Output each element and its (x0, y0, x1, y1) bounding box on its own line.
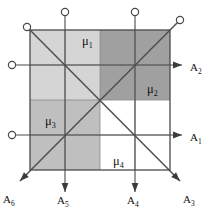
node-circle-a6[interactable] (176, 16, 183, 23)
axis-label-a4: A4 (127, 194, 139, 208)
axis-label-base: A (183, 193, 191, 205)
grid-cell-r0-c2 (100, 30, 135, 65)
arrow-head-a4 (132, 183, 139, 192)
axis-label-a6: A6 (3, 193, 15, 208)
axis-label-subscript: 1 (198, 137, 202, 146)
region-label-subscript: 2 (154, 89, 158, 98)
grid-cell-r1-c0 (30, 65, 65, 100)
node-circle-a1[interactable] (8, 131, 15, 138)
axis-label-base: A (127, 194, 135, 206)
axis-label-subscript: 3 (191, 199, 195, 208)
axis-label-subscript: 6 (11, 199, 15, 208)
node-circle-a5[interactable] (61, 8, 68, 15)
arrow-head-a1 (173, 132, 182, 139)
arrow-head-a2 (173, 62, 182, 69)
diagram-figure: A1A2A3A4A5A6 μ1μ2μ3μ4 (0, 0, 210, 208)
axis-label-a1: A1 (190, 131, 202, 146)
axis-label-subscript: 4 (135, 200, 139, 208)
grid-cell-r2-c3 (135, 100, 170, 135)
diagram-canvas: A1A2A3A4A5A6 μ1μ2μ3μ4 (0, 0, 210, 208)
axis-label-base: A (190, 61, 198, 73)
axis-label-subscript: 2 (198, 67, 202, 76)
axis-label-a5: A5 (57, 194, 69, 208)
axis-label-base: A (3, 193, 11, 205)
region-label-subscript: 1 (89, 41, 93, 50)
region-label-subscript: 3 (52, 121, 56, 130)
node-circle-a4[interactable] (131, 8, 138, 15)
axis-label-base: A (190, 131, 198, 143)
axis-label-a3: A3 (183, 193, 195, 208)
axis-label-a2: A2 (190, 61, 202, 76)
axis-label-subscript: 5 (65, 200, 69, 208)
region-label-subscript: 4 (120, 161, 124, 170)
node-circle-a3[interactable] (23, 23, 30, 30)
node-circle-a2[interactable] (8, 61, 15, 68)
axis-label-base: A (57, 194, 65, 206)
arrow-head-a5 (62, 183, 69, 192)
grid-cell-r3-c1 (65, 135, 100, 170)
